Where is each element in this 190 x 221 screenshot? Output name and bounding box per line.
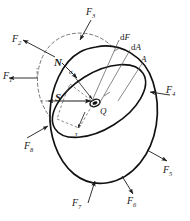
force-label-F6: F6 [127,196,136,209]
force-label-F3: F3 [86,7,95,20]
force-label-F7: F7 [72,198,81,211]
stress-vector-label-S: S [55,92,61,103]
normal-vector-label-N: N [54,57,62,68]
force-arrow-F7 [88,181,95,203]
force-label-F2: F2 [12,34,21,47]
force-arrow-F5 [147,150,167,161]
force-arrow-F2 [23,40,55,57]
force-label-F4: F4 [166,85,175,98]
sigma-label: σ [69,69,72,76]
tau-label: τ [75,131,78,138]
mechanics-diagram [0,0,190,221]
point-label-Q: Q [100,107,107,116]
force-label-F1: F1 [3,71,12,84]
force-label-F5: F5 [163,165,172,178]
force-label-F8: F8 [24,141,33,154]
force-arrow-F8 [27,126,48,138]
force-arrow-F3 [80,20,91,40]
section-label-A: A [141,55,147,64]
force-arrow-F6 [122,176,133,194]
differential-area-label-dA: dA [131,43,141,52]
differential-force-label-dF: dF [120,33,130,42]
figure-container: F1 F2 F3 F4 F5 F6 F7 F8 N S σ τ Q A dF d… [0,0,190,221]
